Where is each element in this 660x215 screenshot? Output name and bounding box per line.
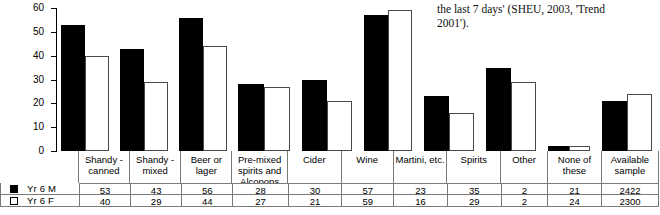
legend-item: Yr 6 M [0, 183, 79, 195]
table-data-cell: 29 [130, 195, 181, 207]
bar-male [238, 84, 264, 151]
table-header-line: canned [79, 165, 129, 176]
table-header-line: Available [602, 154, 658, 165]
table-header-row: Shandy -cannedShandy -mixedBeer or lager… [0, 151, 659, 183]
table-data-cell: 27 [232, 195, 287, 207]
table-data-cell: 29 [447, 195, 501, 207]
bar-female [327, 101, 352, 151]
table-data-cell: 40 [79, 195, 130, 207]
table-data-cell: 35 [447, 183, 501, 195]
bar-group [56, 8, 115, 151]
table-row: Yr 6 M53435628305723352212422 [0, 183, 659, 195]
table-data-cell: 53 [79, 183, 130, 195]
bar-group [481, 8, 543, 151]
bar-female [264, 87, 290, 151]
bar-pair [543, 8, 597, 151]
bar-group [174, 8, 233, 151]
y-axis-tick-label: 60 [22, 3, 44, 13]
table-header-line: sample [602, 165, 658, 176]
table-header-line: None of these [548, 154, 601, 176]
bar-group [543, 8, 597, 151]
table-data-cell: 57 [341, 183, 393, 195]
table-header-cell: Other [500, 151, 547, 183]
table-data-cell: 30 [288, 183, 342, 195]
legend-label: Yr 6 F [27, 195, 54, 206]
bar-male [302, 80, 327, 152]
table-header-line: spirits and [232, 165, 287, 176]
table-data-cell: 56 [181, 183, 232, 195]
table-header-cell: Cider [287, 151, 341, 183]
table-data-cell: 28 [232, 183, 287, 195]
table-header-line: Martini, etc. [394, 154, 447, 165]
y-axis-tick-label: 30 [22, 75, 44, 85]
bar-male [602, 101, 627, 151]
bar-pair [233, 8, 297, 151]
bar-pair [297, 8, 359, 151]
bar-pair [174, 8, 233, 151]
bar-female [511, 82, 536, 151]
bar-male [179, 18, 203, 151]
bar-female [449, 113, 474, 151]
hollow-square-icon [10, 197, 18, 205]
table-header-cell: Pre-mixedspirits andAlcopops [231, 151, 287, 183]
table-header-cell: Beer or lager [180, 151, 231, 183]
table-data-cell: 24 [547, 195, 601, 207]
table-header-line: mixed [130, 165, 180, 176]
plot-area [56, 8, 654, 151]
table-available-sample-cell: 2300 [601, 195, 659, 207]
table-header-line: Other [501, 154, 547, 165]
bar-pair [419, 8, 481, 151]
bar-female [85, 56, 109, 151]
table-header-cell: Wine [341, 151, 393, 183]
y-axis-tick-label: 20 [22, 98, 44, 108]
bar-pair [597, 8, 659, 151]
table-data-cell: 21 [547, 183, 601, 195]
bar-group [359, 8, 419, 151]
table-header-cell: Shandy -mixed [129, 151, 180, 183]
table-data-cell: 16 [393, 195, 447, 207]
table-header-line: Spirits [447, 154, 500, 165]
bar-female [627, 94, 652, 151]
table-data-cell: 43 [130, 183, 181, 195]
table-header-cell: Shandy -canned [78, 151, 129, 183]
table-header-line: Pre-mixed [232, 154, 287, 165]
table-available-sample-cell: 2422 [601, 183, 659, 195]
bar-female [388, 10, 412, 151]
bar-group [297, 8, 359, 151]
table-data-cell: 2 [501, 183, 548, 195]
bar-group [233, 8, 297, 151]
table-header-cell: None of these [547, 151, 601, 183]
bar-male [486, 68, 511, 151]
bar-group [597, 8, 659, 151]
filled-square-icon [10, 185, 18, 193]
bar-group [419, 8, 481, 151]
table-header-available-sample: Availablesample [601, 151, 659, 183]
legend-item: Yr 6 F [0, 195, 79, 207]
legend-label: Yr 6 M [27, 183, 56, 194]
table-header-spacer [0, 151, 78, 183]
y-axis-tick-label: 10 [22, 122, 44, 132]
table-header-line: Wine [342, 154, 393, 165]
bar-pair [481, 8, 543, 151]
table-header-line: Shandy - [130, 154, 180, 165]
table-header-cell: Martini, etc. [393, 151, 447, 183]
table-data-cell: 2 [501, 195, 548, 207]
bar-female [203, 46, 227, 151]
table-header-line: Alcopops [232, 176, 287, 183]
table-header-cell: Spirits [446, 151, 500, 183]
table-header-line: Cider [288, 154, 341, 165]
bar-pair [359, 8, 419, 151]
bar-chart-figure: 6050403020100 Shandy -cannedShandy -mixe… [0, 0, 660, 215]
y-axis-tick-label: 50 [22, 27, 44, 37]
bar-group [115, 8, 174, 151]
bar-male [364, 15, 388, 151]
table-header-line: Beer or lager [181, 154, 231, 176]
table-row: Yr 6 F40294427215916292242300 [0, 195, 659, 207]
bar-male [61, 25, 85, 151]
table-header-line: Shandy - [79, 154, 129, 165]
bar-male [424, 96, 449, 151]
data-table: Shandy -cannedShandy -mixedBeer or lager… [0, 151, 659, 207]
bar-pair [115, 8, 174, 151]
y-axis-tick-label: 40 [22, 51, 44, 61]
bar-pair [56, 8, 115, 151]
